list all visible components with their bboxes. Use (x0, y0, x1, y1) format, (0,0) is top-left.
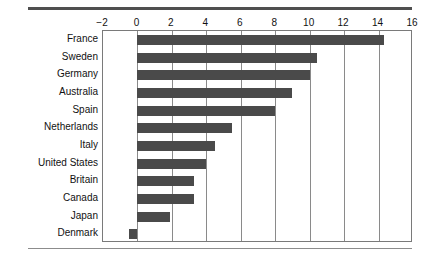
bottom-rule (28, 248, 412, 249)
x-tick-label: 0 (134, 16, 140, 29)
bar-chart-figure: −20246810121416 FranceSwedenGermanyAustr… (0, 0, 440, 261)
bar (137, 194, 194, 204)
category-label: Sweden (0, 52, 98, 62)
x-axis-tick-labels: −20246810121416 (0, 16, 440, 30)
x-tick-label: 8 (271, 16, 277, 29)
bar (137, 35, 383, 45)
category-label: France (0, 34, 98, 44)
bar (137, 159, 206, 169)
x-tick-label: −2 (96, 16, 107, 29)
category-label: Italy (0, 140, 98, 150)
bar (137, 123, 232, 133)
category-label: Australia (0, 87, 98, 97)
bar (129, 229, 138, 239)
x-tick-label: 12 (338, 16, 349, 29)
category-label: Netherlands (0, 122, 98, 132)
category-label: Britain (0, 175, 98, 185)
x-tick-label: 4 (203, 16, 209, 29)
category-label: Japan (0, 211, 98, 221)
category-label: Denmark (0, 228, 98, 238)
y-axis-category-labels: FranceSwedenGermanyAustraliaSpainNetherl… (0, 30, 98, 242)
category-label: Germany (0, 69, 98, 79)
bar (137, 106, 275, 116)
bar (137, 176, 194, 186)
bar (137, 88, 292, 98)
bar (137, 53, 316, 63)
bar (137, 212, 170, 222)
x-tick-label: 10 (303, 16, 314, 29)
category-label: United States (0, 158, 98, 168)
category-label: Canada (0, 193, 98, 203)
bar (137, 70, 309, 80)
x-tick-label: 2 (168, 16, 174, 29)
x-tick-label: 16 (406, 16, 417, 29)
bar (137, 141, 215, 151)
x-tick-label: 6 (237, 16, 243, 29)
x-tick-label: 14 (372, 16, 383, 29)
top-rule (28, 7, 412, 10)
plot-area (102, 30, 412, 242)
category-label: Spain (0, 105, 98, 115)
bars-layer (103, 31, 411, 241)
